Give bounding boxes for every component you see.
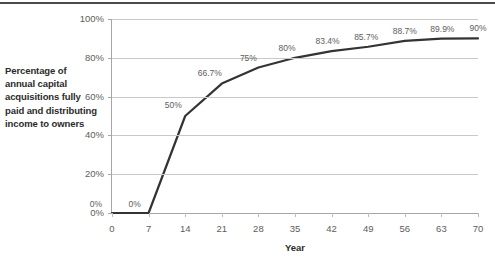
y-tick-label: 60% (64, 92, 104, 102)
x-tick-label: 0 (92, 224, 132, 234)
x-tick-mark (149, 213, 150, 217)
y-tick-label: 80% (64, 53, 104, 63)
top-divider-rule (0, 2, 495, 4)
data-point-label: 75% (225, 53, 271, 63)
x-tick-label: 63 (421, 224, 461, 234)
x-tick-mark (112, 213, 113, 217)
x-tick-mark (185, 213, 186, 217)
data-point-label: 66.7% (187, 68, 233, 78)
gridline-y (112, 135, 478, 136)
x-tick-label: 7 (129, 224, 169, 234)
y-tick-label: 40% (64, 130, 104, 140)
data-point-label: 90% (455, 23, 495, 33)
y-tick-mark (108, 19, 112, 20)
x-tick-label: 14 (165, 224, 205, 234)
x-tick-mark (405, 213, 406, 217)
chart-container: Percentage of annual capital acquisition… (0, 0, 495, 263)
gridline-y (112, 174, 478, 175)
x-tick-mark (332, 213, 333, 217)
gridline-y (112, 58, 478, 59)
x-tick-label: 42 (312, 224, 352, 234)
data-point-label: 50% (150, 100, 196, 110)
x-tick-label: 28 (238, 224, 278, 234)
y-tick-mark (108, 58, 112, 59)
x-tick-mark (441, 213, 442, 217)
y-tick-mark (108, 174, 112, 175)
x-tick-label: 35 (275, 224, 315, 234)
y-tick-label: 20% (64, 169, 104, 179)
data-point-label: 80% (264, 43, 310, 53)
data-point-label: 0% (112, 199, 158, 209)
y-tick-label: 0% (64, 208, 104, 218)
x-tick-mark (478, 213, 479, 217)
y-tick-mark (108, 97, 112, 98)
y-tick-label: 100% (64, 14, 104, 24)
x-tick-mark (368, 213, 369, 217)
x-tick-mark (258, 213, 259, 217)
x-tick-label: 70 (458, 224, 495, 234)
x-tick-label: 56 (385, 224, 425, 234)
x-tick-label: 21 (202, 224, 242, 234)
x-axis-title: Year (112, 242, 478, 253)
x-tick-mark (222, 213, 223, 217)
gridline-y (112, 19, 478, 20)
y-tick-mark (108, 135, 112, 136)
gridline-y (112, 97, 478, 98)
x-tick-mark (295, 213, 296, 217)
x-tick-label: 49 (348, 224, 388, 234)
